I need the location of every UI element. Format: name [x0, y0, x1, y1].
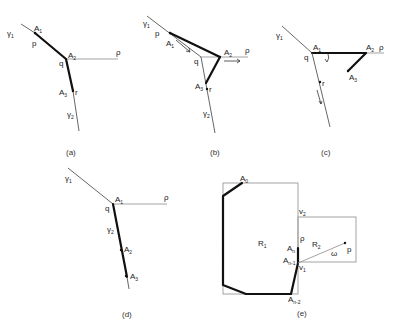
label-a3: A3	[195, 82, 203, 92]
chain-segment-a2-a3	[66, 59, 73, 91]
label-a1: A1	[166, 39, 174, 49]
label-a2: A2	[124, 245, 132, 255]
caption-b: (b)	[210, 148, 220, 157]
point-a2	[120, 249, 122, 251]
label-rho: ρ	[379, 43, 384, 52]
gamma1-ray	[68, 168, 113, 204]
label-a0: A0	[240, 174, 248, 184]
point-p	[344, 242, 346, 244]
caption-e: (e)	[297, 309, 307, 318]
label-an-2: An-2	[288, 295, 301, 305]
label-a2: A2	[224, 48, 232, 58]
panel-a: γ1 A1 p A2 q ρ A3 r γ2 (a)	[7, 24, 121, 157]
label-q: q	[194, 57, 198, 66]
label-a2: A2	[68, 51, 76, 61]
chain-segment-a1-a2	[35, 33, 66, 59]
vertex-dot	[222, 256, 224, 258]
label-rho: ρ	[116, 48, 121, 57]
label-omega: ω	[331, 249, 337, 258]
panel-e: A0 v2 R1 ρ An R2 An-1 v1 ω p An-2 (e)	[222, 174, 356, 318]
label-an-1: An-1	[283, 256, 296, 266]
point-r	[319, 81, 321, 83]
label-r: r	[209, 85, 212, 94]
figure-canvas: γ1 A1 p A2 q ρ A3 r γ2 (a) γ1 p A1	[0, 0, 397, 336]
caption-c: (c)	[321, 148, 331, 157]
label-p: p	[155, 29, 160, 38]
chain-segment-a1-a2	[170, 33, 220, 57]
label-an: An	[287, 244, 295, 254]
gamma2-ray	[127, 277, 129, 289]
chain-segment-a2-a3	[348, 53, 366, 71]
caption-a: (a)	[66, 148, 76, 157]
label-a3: A3	[130, 272, 138, 282]
label-r1: R1	[258, 239, 267, 249]
label-gamma2: γ2	[203, 109, 210, 119]
label-q: q	[105, 204, 109, 213]
label-r: r	[75, 88, 78, 97]
omega-segment	[298, 243, 345, 263]
label-a2: A2	[366, 43, 374, 53]
point-r	[206, 88, 208, 90]
point-a1	[169, 32, 171, 34]
label-q: q	[59, 59, 63, 68]
panel-d: γ1 A1 q ρ γ2 A2 A3 (d)	[65, 168, 169, 319]
point-a3	[72, 90, 74, 92]
gamma2-ray	[312, 53, 330, 127]
label-gamma1: γ1	[65, 174, 72, 184]
label-p: p	[347, 245, 352, 254]
label-a3: A3	[349, 73, 357, 83]
point-a3	[125, 275, 127, 277]
gamma1-ray	[282, 26, 312, 53]
label-gamma1: γ1	[276, 31, 283, 41]
label-rho: ρ	[245, 46, 250, 55]
label-gamma1: γ1	[7, 29, 14, 39]
label-a1: A1	[115, 195, 123, 205]
label-v1: v1	[299, 263, 306, 273]
label-a1: A1	[34, 24, 42, 34]
label-v2: v2	[299, 207, 306, 217]
label-gamma2: γ2	[107, 225, 114, 235]
label-p: p	[32, 39, 37, 48]
panel-c: γ1 A1 q A2 ρ A3 r (c)	[276, 26, 384, 157]
gamma1-ray	[21, 24, 35, 33]
label-q: q	[304, 53, 308, 62]
chain-segment-a2-a3	[206, 57, 220, 83]
label-r2: R2	[312, 240, 321, 250]
point-a3	[347, 70, 349, 72]
label-rho: ρ	[300, 234, 305, 243]
arrow-rotate	[325, 54, 329, 62]
arrow-a2-slide	[224, 59, 240, 63]
label-a3: A3	[59, 88, 67, 98]
label-rho: ρ	[164, 193, 169, 202]
chain-segment-a1-a3	[113, 204, 127, 277]
vertex-dot	[222, 216, 224, 218]
panel-b: γ1 p A1 q A2 ρ A3 r γ2 (b)	[143, 16, 250, 157]
region-r2-rect	[298, 217, 356, 262]
vertex-dot	[267, 293, 269, 295]
gamma2-ray	[73, 91, 79, 131]
label-gamma2: γ2	[67, 110, 74, 120]
label-gamma1: γ1	[143, 19, 150, 29]
label-a1: A1	[313, 43, 321, 53]
label-r: r	[322, 79, 325, 88]
caption-d: (d)	[122, 310, 132, 319]
